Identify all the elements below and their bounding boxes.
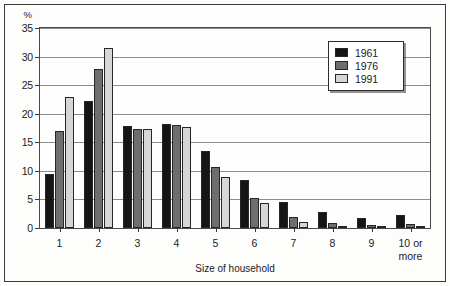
- x-axis-tick-label: 10 or more: [399, 237, 423, 262]
- x-axis-tick-label: 8: [330, 237, 336, 250]
- legend-swatch-1976: [335, 61, 348, 70]
- bar: [123, 126, 132, 228]
- x-axis-tick: [294, 228, 295, 232]
- y-axis-tick: [35, 28, 39, 29]
- y-axis-tick-label: 0: [27, 222, 33, 234]
- bar: [299, 222, 308, 228]
- bar-group: [123, 28, 152, 228]
- x-axis-tick-label: 2: [96, 237, 102, 250]
- bar: [416, 226, 425, 228]
- bar: [357, 218, 366, 228]
- bar: [172, 125, 181, 228]
- legend-label-1961: 1961: [355, 47, 378, 59]
- bar: [211, 167, 220, 228]
- bar: [396, 215, 405, 228]
- bar: [133, 129, 142, 228]
- y-axis-tick-label: 10: [22, 165, 33, 177]
- bar: [338, 226, 347, 228]
- x-axis-tick-label: 7: [291, 237, 297, 250]
- legend-label-1976: 1976: [355, 60, 378, 72]
- bar-group: [162, 28, 191, 228]
- bar-group: [201, 28, 230, 228]
- y-axis-tick: [35, 57, 39, 58]
- x-axis-tick-label: 6: [252, 237, 258, 250]
- x-axis-title: Size of household: [39, 263, 431, 274]
- x-axis-tick-label: 3: [135, 237, 141, 250]
- x-axis-tick: [60, 228, 61, 232]
- x-axis-tick: [138, 228, 139, 232]
- bar: [94, 69, 103, 228]
- x-axis-tick: [177, 228, 178, 232]
- y-axis-tick-label: 15: [22, 136, 33, 148]
- y-axis-tick: [35, 228, 39, 229]
- legend-label-1991: 1991: [355, 73, 378, 85]
- bar: [240, 180, 249, 228]
- bar: [289, 217, 298, 228]
- x-axis-tick-label: 5: [213, 237, 219, 250]
- y-axis-tick: [35, 142, 39, 143]
- y-axis-tick: [35, 171, 39, 172]
- legend-item: 1991: [335, 72, 398, 85]
- legend-item: 1961: [335, 46, 398, 59]
- bar: [377, 226, 386, 228]
- x-axis-tick: [411, 228, 412, 232]
- legend-swatch-1961: [335, 48, 348, 57]
- bar: [104, 48, 113, 228]
- bar: [143, 129, 152, 228]
- y-axis-tick: [35, 199, 39, 200]
- bar: [162, 124, 171, 228]
- bar: [45, 174, 54, 228]
- y-axis-tick: [35, 85, 39, 86]
- bar: [221, 177, 230, 228]
- bar-group: [279, 28, 308, 228]
- x-axis-tick: [99, 228, 100, 232]
- x-axis-tick: [216, 228, 217, 232]
- bar-group: [45, 28, 74, 228]
- bar: [55, 131, 64, 228]
- bar: [201, 151, 210, 228]
- bar: [84, 101, 93, 228]
- bar-group: [84, 28, 113, 228]
- bar: [260, 203, 269, 228]
- y-axis-tick-label: 30: [22, 51, 33, 63]
- x-axis-tick-label: 1: [57, 237, 63, 250]
- y-axis-tick-label: 20: [22, 108, 33, 120]
- chart-screenshot: % 05101520253035 12345678910 or more Siz…: [0, 0, 450, 286]
- bar: [250, 198, 259, 228]
- x-axis-tick: [372, 228, 373, 232]
- x-axis-tick-label: 9: [369, 237, 375, 250]
- x-axis-tick: [255, 228, 256, 232]
- bar-group: [240, 28, 269, 228]
- y-axis-tick-label: 5: [27, 193, 33, 205]
- bar: [65, 97, 74, 228]
- y-axis-tick-label: 35: [22, 22, 33, 34]
- x-axis-tick-label: 4: [174, 237, 180, 250]
- legend: 1961 1976 1991: [328, 41, 404, 91]
- legend-item: 1976: [335, 59, 398, 72]
- x-axis-tick: [333, 228, 334, 232]
- bar: [182, 127, 191, 228]
- bar: [318, 212, 327, 228]
- legend-swatch-1991: [335, 74, 348, 83]
- y-axis-tick: [35, 114, 39, 115]
- bar: [279, 202, 288, 228]
- y-axis-tick-label: 25: [22, 79, 33, 91]
- y-axis-unit-label: %: [24, 9, 32, 20]
